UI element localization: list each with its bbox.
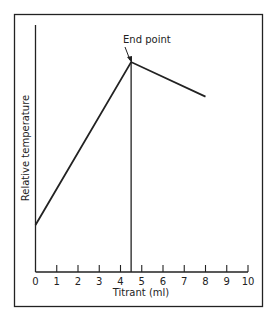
x-tick-label: 5 xyxy=(139,276,145,287)
end-point-annotation: End point xyxy=(123,34,171,45)
titration-chart: 012345678910 Relative temperature Titran… xyxy=(0,0,277,321)
x-tick-label: 4 xyxy=(117,276,123,287)
chart-frame xyxy=(15,15,263,307)
x-ticks: 012345678910 xyxy=(32,265,254,287)
x-tick-label: 2 xyxy=(75,276,81,287)
x-tick-label: 0 xyxy=(32,276,38,287)
x-tick-label: 9 xyxy=(224,276,230,287)
x-tick-label: 10 xyxy=(242,276,255,287)
x-axis-label: Titrant (ml) xyxy=(112,287,170,298)
titration-curve xyxy=(36,62,206,225)
x-tick-label: 1 xyxy=(54,276,60,287)
x-tick-label: 6 xyxy=(160,276,166,287)
x-tick-label: 7 xyxy=(181,276,187,287)
x-tick-label: 8 xyxy=(202,276,208,287)
x-tick-label: 3 xyxy=(96,276,102,287)
y-axis-label: Relative temperature xyxy=(20,95,31,201)
arrow-head-icon xyxy=(127,56,132,63)
